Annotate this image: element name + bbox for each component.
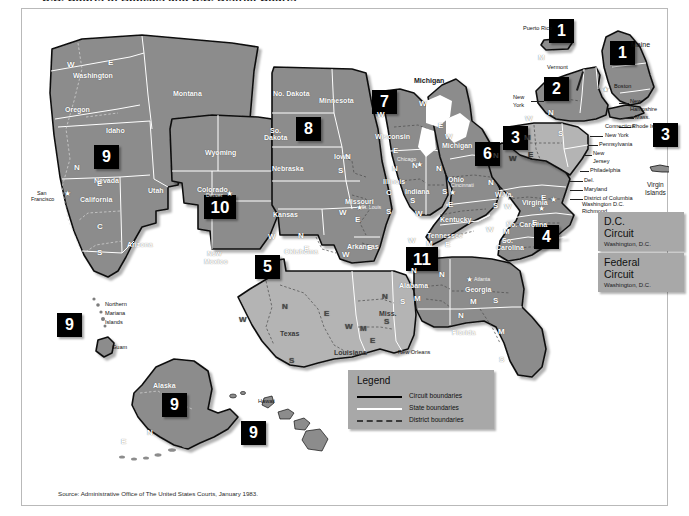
- legend-label-circuit-boundary: Circuit boundaries: [409, 392, 462, 399]
- state-label-washington: Washington: [73, 72, 113, 79]
- district-letter: E: [324, 310, 329, 318]
- state-label-florida: Florida: [452, 329, 475, 336]
- federal-circuit-subtitle: Washington, D.C.: [598, 280, 684, 288]
- district-letter: M: [360, 325, 367, 333]
- city-label-atlanta: Atlanta: [474, 277, 490, 282]
- state-label-west-virginia: W.Va.: [495, 191, 513, 198]
- district-letter: M: [524, 134, 531, 142]
- district-letter: S: [499, 356, 504, 364]
- state-label-arizona: Arizona: [127, 241, 153, 248]
- state-label-utah: Utah: [148, 187, 164, 194]
- district-letter: N: [548, 109, 554, 117]
- state-label-idaho: Idaho: [106, 127, 125, 134]
- district-letter: W: [419, 100, 427, 108]
- capital-star-san-francisco: ★: [64, 190, 71, 198]
- callout-vermont: Vermont: [547, 65, 568, 71]
- circuit-badge-8[interactable]: 8: [296, 117, 321, 141]
- state-label-montana: Montana: [173, 90, 202, 97]
- state-label-michigan-lower: Michigan: [442, 142, 472, 149]
- callout-northern-mariana-line2: Mariana: [105, 311, 125, 317]
- state-label-indiana: Indiana: [405, 188, 430, 195]
- circuit-badge-4[interactable]: 4: [534, 225, 559, 249]
- leader-line-new-york: [531, 101, 544, 102]
- district-letter: W: [339, 209, 347, 217]
- circuit-10-region: [170, 115, 278, 249]
- dc-circuit-panel[interactable]: D.C. Circuit Washington, D.C.: [598, 212, 684, 251]
- callout-virgin-islands-line1: Virgin: [647, 182, 664, 189]
- legend-label-district-boundary: District boundaries: [409, 416, 464, 423]
- legend-swatch-circuit-boundary: [357, 396, 402, 398]
- callout-new-jersey-line1: New: [593, 151, 604, 157]
- state-label-wisconsin: Wisconsin: [375, 133, 410, 140]
- district-letter: N: [298, 232, 304, 240]
- state-label-arkansas: Arkansas: [347, 243, 379, 250]
- leader-line-new-hampshire: [619, 103, 629, 104]
- state-label-wyoming: Wyoming: [205, 149, 236, 156]
- district-letter: W: [509, 155, 517, 163]
- district-letter: E: [445, 241, 450, 249]
- callout-district-of-columbia: District of Columbia: [584, 196, 633, 202]
- leader-line-delaware: [570, 181, 583, 182]
- federal-circuit-title-line1: Federal: [604, 256, 640, 268]
- callout-maine: Maine: [631, 41, 650, 48]
- federal-circuit-panel[interactable]: Federal Circuit Washington, D.C.: [598, 253, 684, 292]
- circuit-badge-3-virgin-islands[interactable]: 3: [653, 123, 678, 147]
- map-screenshot: U.S. Courts of Appeals and U.S. District…: [0, 0, 689, 516]
- callout-virgin-islands-line2: Islands: [645, 190, 666, 197]
- city-label-boston: Boston: [614, 84, 631, 90]
- district-letter: S: [384, 318, 389, 326]
- district-letter: C: [386, 189, 392, 197]
- district-letter: N: [488, 179, 494, 187]
- city-label-new-orleans: New Orleans: [398, 350, 430, 356]
- state-label-california: California: [80, 196, 112, 203]
- district-letter: E: [370, 337, 375, 345]
- callout-guam: Guam: [112, 345, 127, 351]
- district-letter: S: [97, 249, 102, 257]
- circuit-badge-9-hawaii[interactable]: 9: [241, 421, 266, 445]
- district-letter: W: [445, 133, 453, 141]
- state-label-new-mexico-line2: Mexico: [204, 258, 228, 265]
- district-letter: S: [493, 202, 498, 210]
- district-letter: W: [342, 251, 350, 259]
- state-label-north-carolina: No. Carolina: [506, 221, 547, 228]
- state-label-oregon: Oregon: [65, 106, 90, 113]
- district-letter: W: [415, 210, 423, 218]
- district-letter: W: [268, 233, 276, 241]
- district-letter: W: [408, 237, 416, 245]
- callout-hawaii: Hawaii: [258, 399, 275, 405]
- district-letter: E: [97, 180, 102, 188]
- district-letter: S: [289, 357, 294, 365]
- state-label-alaska: Alaska: [153, 382, 176, 389]
- leader-line-massachusetts: [622, 118, 634, 119]
- circuit-badge-5[interactable]: 5: [255, 255, 280, 279]
- circuit-badge-10[interactable]: 10: [204, 195, 236, 219]
- callout-northern-mariana-line3: Islands: [105, 320, 123, 326]
- state-label-illinois: Illinois: [383, 178, 405, 185]
- district-letter: N: [493, 152, 499, 160]
- state-label-south-dakota-line2: Dakota: [264, 134, 287, 141]
- state-label-new-mexico-line1: New: [207, 250, 221, 257]
- circuit-badge-2[interactable]: 2: [544, 77, 569, 101]
- callout-new-hampshire-line2: Hampshire: [630, 107, 657, 113]
- callout-new-york-line2: York: [513, 103, 524, 109]
- circuit-badge-9-pacific-territories[interactable]: 9: [57, 313, 82, 337]
- circuit-badge-9-alaska[interactable]: 9: [162, 393, 187, 417]
- state-label-minnesota: Minnesota: [319, 97, 354, 104]
- state-label-michigan-upper: Michigan: [414, 77, 444, 84]
- legend-title: Legend: [357, 375, 390, 386]
- callout-massachusetts: Mass.: [635, 115, 650, 121]
- callout-connecticut: Connecticut: [605, 124, 635, 130]
- district-letter: S: [400, 298, 405, 306]
- callout-new-york-city: New York: [605, 133, 629, 139]
- district-letter: N: [411, 267, 417, 275]
- district-letter: E: [121, 438, 126, 446]
- leader-line-new-york-city: [590, 136, 603, 137]
- callout-pennsylvania: Pennsylvania: [599, 142, 632, 148]
- city-label-denver: Denver: [206, 193, 223, 198]
- circuit-badge-1-puerto-rico[interactable]: 1: [549, 19, 574, 43]
- district-letter: E: [304, 245, 309, 253]
- leader-line-philadelphia: [580, 171, 589, 172]
- circuit-badge-9-west[interactable]: 9: [94, 145, 119, 169]
- capital-star-cincinnati: ★: [449, 189, 456, 197]
- district-letter: S: [558, 130, 563, 138]
